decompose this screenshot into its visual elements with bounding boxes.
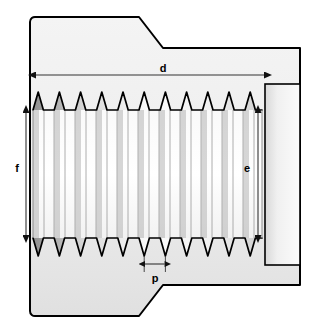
dimension-p-label: p: [152, 272, 159, 284]
threaded-fitting-drawing: d e f p: [0, 0, 313, 335]
dimension-f: f: [15, 113, 26, 235]
shoulder-step-face: [265, 84, 300, 265]
diagram-canvas: d e f p: [0, 0, 313, 335]
dimension-f-label: f: [15, 162, 19, 174]
dimension-e-label: e: [244, 162, 250, 174]
dimension-d-label: d: [160, 62, 167, 74]
thread-section: [33, 92, 262, 256]
shoulder-step: [265, 84, 300, 265]
